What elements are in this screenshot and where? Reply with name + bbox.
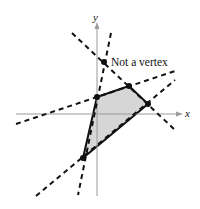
y-axis-label: y bbox=[92, 11, 98, 23]
vertex-point bbox=[94, 94, 100, 100]
feasible-region-diagram: x y Not a vertex bbox=[0, 0, 200, 209]
x-axis-label: x bbox=[184, 107, 190, 119]
non-vertex-point bbox=[101, 59, 107, 65]
vertex-point bbox=[145, 101, 151, 107]
vertex-point bbox=[80, 155, 86, 161]
vertex-point bbox=[126, 83, 132, 89]
non-vertex-label: Not a vertex bbox=[111, 56, 168, 68]
y-axis-arrow-icon bbox=[95, 22, 100, 29]
x-axis-arrow-icon bbox=[176, 112, 183, 117]
